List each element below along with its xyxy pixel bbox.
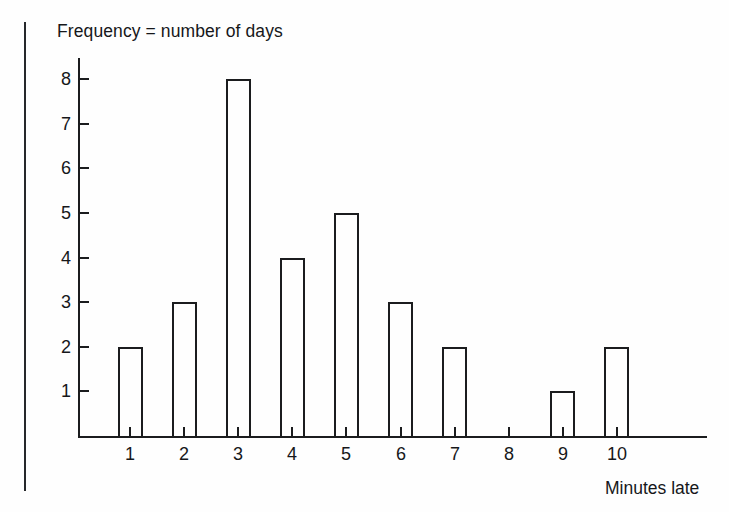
bar-chart-figure: Frequency = number of days 12345678 1234… [0,0,729,512]
y-axis-tick [80,78,89,80]
bar [604,347,629,436]
x-axis-tick [508,427,510,436]
y-axis-tick [80,212,89,214]
x-axis-line [78,436,707,438]
y-axis-tick-label: 5 [49,204,71,222]
chart-title: Frequency = number of days [57,20,283,42]
y-axis-tick-label: 4 [49,249,71,267]
bar [118,347,143,436]
x-axis-tick-label: 8 [489,444,529,464]
page-margin-rule [24,22,26,491]
bar [226,79,251,436]
y-axis-tick-label: 8 [49,70,71,88]
y-axis-tick-label: 1 [49,382,71,400]
y-axis-tick [80,390,89,392]
y-axis-tick [80,301,89,303]
x-axis-tick-label: 10 [597,444,637,464]
y-axis-line [78,58,80,438]
bar [388,302,413,436]
x-axis-tick-label: 6 [381,444,421,464]
bar [550,391,575,436]
y-axis-tick [80,167,89,169]
bar [172,302,197,436]
bar [280,258,305,436]
y-axis-tick [80,123,89,125]
y-axis-tick-label: 3 [49,293,71,311]
y-axis-tick-label: 7 [49,115,71,133]
x-axis-tick-label: 4 [272,444,312,464]
y-axis-tick [80,346,89,348]
y-axis-tick [80,257,89,259]
x-axis-title: Minutes late [605,477,699,499]
x-axis-tick-label: 7 [435,444,475,464]
bar [442,347,467,436]
x-axis-tick-label: 3 [218,444,258,464]
x-axis-tick-label: 5 [326,444,366,464]
x-axis-tick-label: 9 [543,444,583,464]
y-axis-tick-label: 6 [49,159,71,177]
bar [334,213,359,436]
x-axis-tick-label: 2 [164,444,204,464]
x-axis-tick-label: 1 [110,444,150,464]
y-axis-tick-label: 2 [49,338,71,356]
